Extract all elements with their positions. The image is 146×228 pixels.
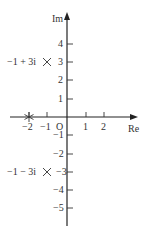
y-tick-label: −5 bbox=[53, 202, 64, 213]
complex-plane-diagram: Re Im O −2 −1 1 2 4 3 2 1 −1 −2 −3 −4 −5 bbox=[0, 0, 146, 228]
point-cross-upper: −1 + 3i bbox=[7, 56, 51, 67]
y-tick-label: 2 bbox=[58, 74, 63, 85]
y-tick-label: 4 bbox=[58, 38, 63, 49]
imaginary-axis-label: Im bbox=[52, 13, 63, 24]
y-tick-label: 3 bbox=[58, 56, 63, 67]
y-tick-label: −1 bbox=[53, 129, 64, 140]
imaginary-axis-arrow-icon bbox=[64, 12, 70, 20]
point-label: −1 − 3i bbox=[7, 166, 36, 177]
x-tick-label: 2 bbox=[101, 121, 106, 132]
x-tick-label: −2 bbox=[22, 121, 33, 132]
real-axis-arrow-icon bbox=[130, 114, 138, 120]
point-cross-lower: −1 − 3i bbox=[7, 166, 51, 177]
y-tick-label: −3 bbox=[56, 166, 67, 177]
x-tick-label: 1 bbox=[83, 121, 88, 132]
y-tick-label: −4 bbox=[53, 184, 64, 195]
point-label: −1 + 3i bbox=[7, 56, 36, 67]
real-axis-label: Re bbox=[128, 123, 140, 134]
x-tick-label: −1 bbox=[40, 121, 51, 132]
y-tick-label: 1 bbox=[58, 93, 63, 104]
x-ticks: −2 −1 1 2 bbox=[22, 112, 106, 132]
y-tick-label: −2 bbox=[53, 148, 64, 159]
